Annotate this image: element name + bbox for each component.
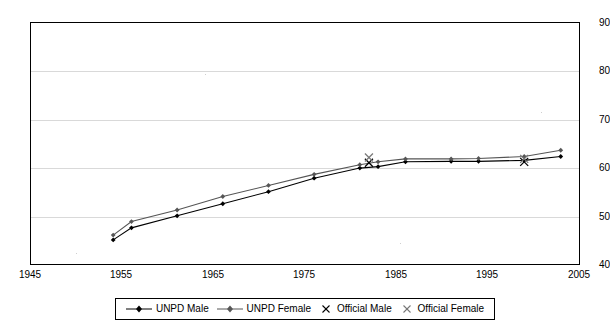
scan-speckle [541,112,542,113]
data-point-marker [558,154,563,159]
cross-x-icon [319,304,333,314]
series-unpd-male [111,154,563,242]
series-layer [0,0,610,334]
data-point-marker [312,172,317,177]
filled-diamond-line-icon [217,304,243,314]
data-point-marker [376,159,381,164]
data-point-marker [403,157,408,162]
legend-label-official-female: Official Female [418,304,485,314]
data-point-marker [449,157,454,162]
filled-diamond-line-icon [126,304,152,314]
legend-item-unpd-male: UNPD Male [126,304,209,314]
data-point-marker [266,183,271,188]
scan-speckle [205,74,206,75]
data-point-marker [175,208,180,213]
data-point-marker [558,148,563,153]
data-point-marker [266,189,271,194]
data-point-marker [220,194,225,199]
data-point-marker [175,213,180,218]
scan-speckle [76,253,77,254]
data-point-marker [476,156,481,161]
life-expectancy-chart: 90 80 70 60 50 40 1945 1955 1965 1975 19… [0,0,610,334]
legend-item-unpd-female: UNPD Female [217,304,311,314]
legend-label-unpd-male: UNPD Male [156,304,209,314]
legend-label-official-male: Official Male [337,304,392,314]
legend-label-unpd-female: UNPD Female [247,304,311,314]
scan-speckle [400,243,401,244]
data-point-marker [357,162,362,167]
data-point-marker [376,164,381,169]
cross-x-icon [400,304,414,314]
chart-legend: UNPD Male UNPD Female Official Male Offi… [115,298,495,320]
legend-item-official-male: Official Male [319,304,392,314]
data-point-marker [220,201,225,206]
legend-item-official-female: Official Female [400,304,485,314]
